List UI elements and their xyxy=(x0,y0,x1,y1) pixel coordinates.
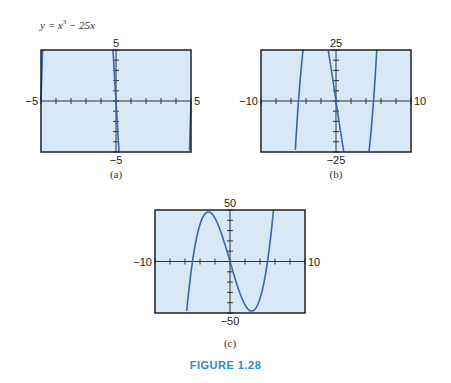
label-xmin-c: −10 xyxy=(133,256,152,268)
label-xmin-a: −5 xyxy=(25,95,38,107)
panel-label-a: (a) xyxy=(101,168,131,180)
label-xmax-c: 10 xyxy=(308,256,320,268)
label-ymax-b: 25 xyxy=(330,37,342,49)
label-ymax-a: 5 xyxy=(113,37,119,49)
label-ymin-b: −25 xyxy=(327,154,346,166)
label-ymin-a: −5 xyxy=(110,154,123,166)
graph-panels: −555−5−101025−25−101050−50 xyxy=(0,0,451,383)
label-ymin-c: −50 xyxy=(221,315,240,327)
label-xmax-b: 10 xyxy=(414,95,426,107)
label-ymax-c: 50 xyxy=(224,197,236,209)
panel-label-b: (b) xyxy=(321,168,351,180)
figure-caption: FIGURE 1.28 xyxy=(0,359,451,371)
label-xmax-a: 5 xyxy=(194,95,200,107)
panel-label-c: (c) xyxy=(215,337,245,349)
label-xmin-b: −10 xyxy=(239,95,258,107)
